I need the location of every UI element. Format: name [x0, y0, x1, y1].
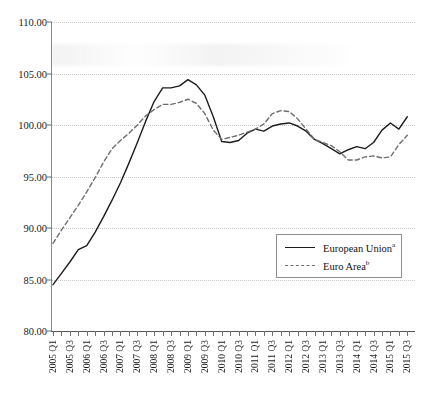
legend-entry-european-union: European Uniona	[285, 240, 395, 254]
series-line-euro-area	[53, 99, 407, 243]
legend-footnote-marker-b: b	[366, 259, 370, 267]
legend-label-european-union: European Uniona	[323, 241, 395, 254]
chart-legend: European Uniona Euro Areab	[276, 234, 402, 278]
chart-container: 80.0085.0090.0095.00100.00105.00110.00 2…	[0, 0, 435, 399]
legend-label-european-union-text: European Union	[323, 242, 392, 253]
series-layer	[0, 0, 435, 399]
legend-label-euro-area-text: Euro Area	[323, 260, 366, 271]
legend-footnote-marker-a: a	[392, 241, 395, 249]
legend-label-euro-area: Euro Areab	[323, 259, 369, 272]
legend-swatch-dashed-line	[285, 265, 315, 266]
legend-entry-euro-area: Euro Areab	[285, 258, 369, 272]
legend-swatch-solid-line	[285, 247, 315, 248]
